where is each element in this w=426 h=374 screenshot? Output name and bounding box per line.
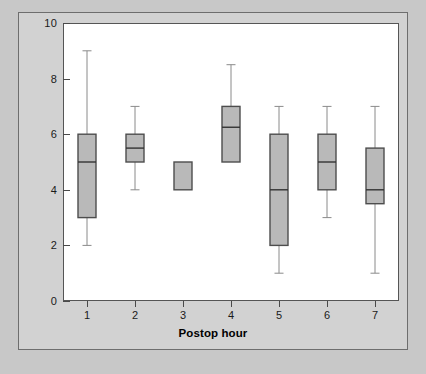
boxplot-box	[318, 106, 336, 217]
x-tick-label: 1	[84, 309, 90, 321]
x-tick-label: 5	[276, 309, 282, 321]
x-tick-mark	[279, 301, 280, 307]
x-tick-mark	[135, 301, 136, 307]
box-iqr-rect	[174, 162, 192, 190]
x-tick-label: 3	[180, 309, 186, 321]
y-tick-label: 6	[35, 128, 57, 140]
boxplot-box	[126, 106, 144, 189]
figure-panel: Postoperative pain scores 0246810 123456…	[18, 12, 408, 350]
box-iqr-rect	[366, 148, 384, 204]
boxplot-box	[222, 65, 240, 162]
x-tick-mark	[231, 301, 232, 307]
y-tick-label: 4	[35, 184, 57, 196]
x-tick-label: 4	[228, 309, 234, 321]
x-tick-mark	[87, 301, 88, 307]
x-tick-mark	[375, 301, 376, 307]
y-tick-label: 10	[35, 17, 57, 29]
boxplot-series	[63, 23, 399, 301]
boxplot-box	[174, 162, 192, 190]
x-axis-label: Postop hour	[19, 327, 407, 339]
x-tick-label: 7	[372, 309, 378, 321]
x-tick-mark	[327, 301, 328, 307]
y-tick-mark	[63, 301, 70, 302]
y-tick-label: 0	[35, 295, 57, 307]
x-tick-mark	[183, 301, 184, 307]
y-tick-label: 8	[35, 73, 57, 85]
plot-wrapper: 0246810 1234567	[63, 23, 399, 301]
box-iqr-rect	[222, 106, 240, 162]
boxplot-box	[366, 106, 384, 273]
box-iqr-rect	[78, 134, 96, 217]
boxplot-box	[270, 106, 288, 273]
x-tick-label: 2	[132, 309, 138, 321]
x-tick-label: 6	[324, 309, 330, 321]
boxplot-box	[78, 51, 96, 246]
y-tick-label: 2	[35, 239, 57, 251]
